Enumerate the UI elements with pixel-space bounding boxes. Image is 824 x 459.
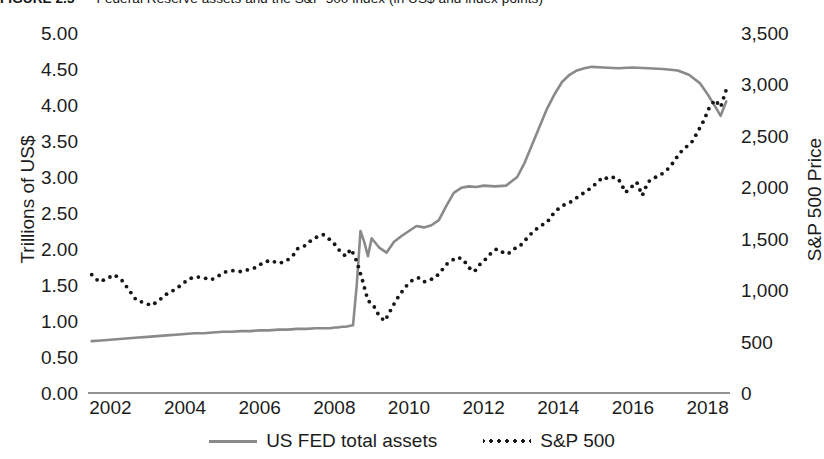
series-dot-sp-500 [581, 192, 585, 196]
series-dot-sp-500 [189, 276, 193, 280]
y-axis-right-tick-label: 3,500 [741, 24, 821, 43]
y-axis-left-tick-label: 1.00 [0, 312, 78, 331]
series-dot-sp-500 [513, 247, 517, 251]
series-dot-sp-500 [507, 251, 511, 255]
series-dot-sp-500 [356, 265, 360, 269]
series-dot-sp-500 [697, 127, 701, 131]
series-dot-sp-500 [389, 309, 393, 313]
legend-swatch-dotted-line-icon [483, 439, 531, 443]
series-dot-sp-500 [707, 107, 711, 111]
legend-item-sp-500: S&P 500 [483, 430, 615, 452]
series-dot-sp-500 [436, 273, 440, 277]
series-dot-sp-500 [133, 297, 137, 301]
series-dot-sp-500 [359, 272, 363, 276]
series-dot-sp-500 [347, 250, 351, 254]
series-dot-sp-500 [625, 189, 629, 193]
series-dot-sp-500 [292, 253, 296, 257]
series-dot-sp-500 [351, 251, 355, 255]
series-dot-sp-500 [367, 300, 371, 304]
series-dot-sp-500 [690, 140, 694, 144]
series-dot-sp-500 [494, 248, 498, 252]
series-us-fed-total-assets [92, 67, 727, 341]
series-dot-sp-500 [385, 315, 389, 319]
series-dot-sp-500 [392, 302, 396, 306]
series-dot-sp-500 [644, 185, 648, 189]
series-dot-sp-500 [541, 223, 545, 227]
series-dot-sp-500 [372, 305, 376, 309]
series-dot-sp-500 [458, 256, 462, 260]
series-dot-sp-500 [501, 250, 505, 254]
legend-swatch-solid-line-icon [209, 440, 257, 443]
y-axis-right-title: S&P 500 Price [805, 100, 824, 300]
series-dot-sp-500 [535, 227, 539, 231]
series-dot-sp-500 [177, 285, 181, 289]
series-dot-sp-500 [417, 276, 421, 280]
series-dot-sp-500 [654, 175, 658, 179]
series-dot-sp-500 [253, 266, 257, 270]
series-dot-sp-500 [547, 218, 551, 222]
chart-container: 0.000.501.001.502.002.503.003.504.004.50… [0, 0, 824, 459]
series-dot-sp-500 [660, 172, 664, 176]
series-dot-sp-500 [478, 263, 482, 267]
series-dot-sp-500 [337, 248, 341, 252]
y-axis-left-tick-label: 4.50 [0, 60, 78, 79]
series-dot-sp-500 [315, 235, 319, 239]
series-dot-sp-500 [363, 286, 367, 290]
series-dot-sp-500 [551, 213, 555, 217]
series-dot-sp-500 [483, 258, 487, 262]
y-axis-right-tick-label: 500 [741, 333, 821, 352]
series-dot-sp-500 [303, 244, 307, 248]
series-dot-sp-500 [638, 188, 642, 192]
y-axis-left-tick-label: 2.00 [0, 240, 78, 259]
series-dot-sp-500 [196, 275, 200, 279]
series-dot-sp-500 [396, 296, 400, 300]
series-dot-sp-500 [647, 179, 651, 183]
series-dot-sp-500 [381, 317, 385, 321]
x-axis-tick-label: 2016 [591, 398, 675, 417]
legend-item-us-fed-total-assets: US FED total assets [209, 430, 437, 452]
series-dot-sp-500 [575, 196, 579, 200]
series-dot-sp-500 [296, 247, 300, 251]
chart-plot-area [0, 0, 824, 459]
series-dot-sp-500 [679, 150, 683, 154]
x-axis-tick-label: 2006 [218, 398, 302, 417]
series-dot-sp-500 [611, 175, 615, 179]
series-dot-sp-500 [445, 262, 449, 266]
series-dot-sp-500 [641, 192, 645, 196]
x-axis-tick-label: 2008 [292, 398, 376, 417]
series-dot-sp-500 [617, 179, 621, 183]
series-dot-sp-500 [114, 274, 118, 278]
series-dot-sp-500 [675, 156, 679, 160]
series-dot-sp-500 [108, 275, 112, 279]
chart-legend: US FED total assets S&P 500 [0, 430, 824, 452]
x-axis-tick-label: 2002 [68, 398, 152, 417]
series-dot-sp-500 [621, 185, 625, 189]
series-dot-sp-500 [423, 280, 427, 284]
y-axis-left-tick-label: 1.50 [0, 276, 78, 295]
series-dot-sp-500 [685, 145, 689, 149]
series-dot-sp-500 [405, 284, 409, 288]
series-dot-sp-500 [266, 259, 270, 263]
series-dot-sp-500 [400, 290, 404, 294]
series-dot-sp-500 [245, 268, 249, 272]
x-axis-tick-label: 2018 [666, 398, 750, 417]
series-dot-sp-500 [224, 270, 228, 274]
series-dot-sp-500 [321, 233, 325, 237]
series-dot-sp-500 [694, 133, 698, 137]
series-dot-sp-500 [440, 268, 444, 272]
series-dot-sp-500 [183, 280, 187, 284]
series-dot-sp-500 [719, 103, 723, 107]
series-dot-sp-500 [259, 262, 263, 266]
series-dot-sp-500 [463, 261, 467, 265]
series-dot-sp-500 [724, 89, 728, 93]
series-dot-sp-500 [630, 184, 634, 188]
series-dot-sp-500 [704, 114, 708, 118]
x-axis-tick-label: 2010 [367, 398, 451, 417]
y-axis-left-title: Trillions of US$ [18, 100, 37, 300]
series-dot-sp-500 [671, 162, 675, 166]
series-dot-sp-500 [147, 302, 151, 306]
series-dot-sp-500 [333, 242, 337, 246]
series-dot-sp-500 [129, 291, 133, 295]
series-dot-sp-500 [165, 292, 169, 296]
series-dot-sp-500 [593, 183, 597, 187]
